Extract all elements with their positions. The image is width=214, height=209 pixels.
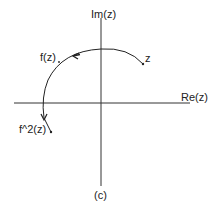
im-axis-label: Im(z) [91, 8, 116, 20]
caption-label: (c) [94, 189, 107, 201]
complex-plane-diagram: Im(z) Re(z) z f(z) f^2(z) (c) [0, 0, 214, 209]
orbit-path [43, 49, 143, 132]
re-axis-label: Re(z) [181, 91, 208, 103]
z-label: z [145, 52, 151, 64]
diagram-svg: Im(z) Re(z) z f(z) f^2(z) (c) [0, 0, 214, 209]
fz-label: f(z) [40, 51, 56, 63]
fz-point [58, 61, 60, 63]
z-point [142, 63, 144, 65]
f2z-point [50, 131, 52, 133]
f2z-label: f^2(z) [19, 123, 46, 135]
